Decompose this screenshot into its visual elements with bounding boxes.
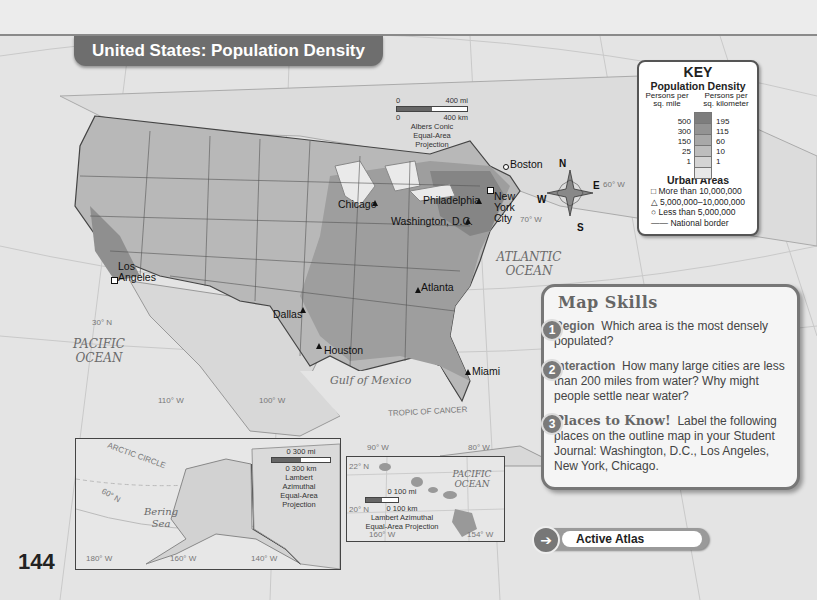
scale-end-km: 400 km <box>443 113 468 122</box>
hawaii-pacific-label: PACIFIC OCEAN <box>447 469 497 489</box>
city-marker-atlanta <box>415 287 421 293</box>
hawaii-projection: Lambert Azimuthal Equal-Area Projection <box>365 513 439 531</box>
page-header-strip <box>0 0 817 36</box>
lon-154w: 154° W <box>467 530 493 539</box>
projection-label: Albers Conic Equal-Area Projection <box>403 122 461 149</box>
map-skills-heading: Map Skills <box>558 293 797 312</box>
lon-140w: 140° W <box>251 554 277 563</box>
urban-medium: △ 5,000,000–10,000,000 <box>651 197 757 208</box>
scale-start-km: 0 <box>396 113 400 122</box>
lon-60w: 60° W <box>603 180 625 189</box>
arrow-right-icon: ➔ <box>532 526 560 554</box>
compass-e: E <box>593 180 600 191</box>
city-marker-miami <box>465 369 471 375</box>
alaska-scale-mi: 0 300 mi <box>271 447 331 456</box>
swatch-2 <box>694 124 712 135</box>
lon-160w-hawaii: 160° W <box>369 530 395 539</box>
map-title: United States: Population Density <box>74 36 383 66</box>
pacific-ocean-label: PACIFIC OCEAN <box>68 337 130 365</box>
compass-rose: N S E W <box>545 168 595 218</box>
city-marker-los-angeles <box>111 277 118 284</box>
gulf-of-mexico-label: Gulf of Mexico <box>330 374 411 388</box>
level-km-1: 1 <box>716 157 720 166</box>
city-label-atlanta: Atlanta <box>421 281 454 293</box>
city-marker-boston <box>503 164 509 170</box>
city-label-los-angeles: Los Angeles <box>118 261 156 283</box>
city-label-houston: Houston <box>324 344 363 356</box>
level-km-10: 10 <box>716 147 725 156</box>
city-marker-philadelphia <box>476 198 482 204</box>
swatch-4 <box>694 146 712 157</box>
swatch-3 <box>694 135 712 146</box>
active-atlas-label: Active Atlas <box>562 531 702 547</box>
national-border-label: National border <box>670 218 728 228</box>
city-marker-chicago <box>372 200 378 206</box>
hawaii-scale-km: 0 100 km <box>365 504 439 513</box>
scale-bar <box>396 106 468 112</box>
map-key: KEY Population Density Persons per sq. m… <box>637 60 759 236</box>
key-heading: KEY <box>639 64 757 80</box>
active-atlas-button[interactable]: ➔ Active Atlas <box>534 528 709 550</box>
question-3: 3 Places to Know! Label the following pl… <box>554 413 790 474</box>
alaska-inset: ARCTIC CIRCLE 60° N Bering Sea 180° W 16… <box>75 438 341 570</box>
question-3-title: Places to Know! <box>554 413 671 428</box>
city-marker-dallas <box>300 307 306 313</box>
alaska-scale-bar <box>271 457 331 463</box>
line-icon: —— <box>651 218 670 228</box>
scale-start: 0 <box>396 96 400 105</box>
square-icon: □ <box>651 186 659 196</box>
lon-90w: 90° W <box>367 443 389 452</box>
map-skills-panel: Map Skills 1 Region Which area is the mo… <box>541 284 800 490</box>
lat-22n: 22° N <box>349 462 369 471</box>
compass-n: N <box>559 158 566 169</box>
city-marker-washington <box>465 218 471 224</box>
level-km-115: 115 <box>716 127 729 136</box>
lon-110w: 110° W <box>158 396 184 405</box>
alaska-scale: 0 300 mi 0 300 km Lambert Azimuthal Equa… <box>271 447 331 509</box>
city-label-dallas: Dallas <box>273 308 302 320</box>
hawaii-scale-bar <box>365 497 399 503</box>
key-col-miles: Persons per sq. mile <box>643 92 691 108</box>
main-map-scale: 0400 mi 0400 km Albers Conic Equal-Area … <box>396 96 468 149</box>
triangle-icon: △ <box>651 197 660 207</box>
bering-sea-label: Bering Sea <box>141 506 181 530</box>
lon-160w: 160° W <box>170 554 196 563</box>
lon-180w: 180° W <box>86 554 112 563</box>
compass-w: W <box>537 194 546 205</box>
level-mile-300: 300 <box>678 127 691 136</box>
key-col-km: Persons per sq. kilometer <box>699 92 753 108</box>
level-mile-150: 150 <box>678 137 691 146</box>
number-3-icon: 3 <box>541 413 563 435</box>
compass-star-icon <box>545 168 595 218</box>
page-number: 144 <box>18 549 55 575</box>
number-1-icon: 1 <box>541 319 563 341</box>
city-label-washington: Washington, D.C. <box>391 215 473 227</box>
urban-small-label: Less than 5,000,000 <box>659 207 736 217</box>
level-km-60: 60 <box>716 137 725 146</box>
hawaii-scale-mi: 0 100 mi <box>365 487 439 496</box>
level-mile-1: 1 <box>687 157 691 166</box>
level-mile-500: 500 <box>678 117 691 126</box>
urban-medium-label: 5,000,000–10,000,000 <box>660 197 745 207</box>
urban-small: ○ Less than 5,000,000 <box>651 207 757 218</box>
question-2-title: Interaction <box>554 359 615 373</box>
circle-icon: ○ <box>651 207 659 217</box>
lat-30n: 30° N <box>92 318 112 327</box>
lon-70w: 70° W <box>520 215 542 224</box>
urban-large-label: More than 10,000,000 <box>659 186 742 196</box>
swatch-1 <box>694 112 712 124</box>
scale-end-mi: 400 mi <box>445 96 468 105</box>
swatch-5 <box>694 157 712 168</box>
alaska-projection: Lambert Azimuthal Equal-Area Projection <box>271 473 327 509</box>
city-marker-houston <box>316 343 322 349</box>
swatch-6 <box>694 168 712 179</box>
urban-large: □ More than 10,000,000 <box>651 186 757 197</box>
question-1: 1 Region Which area is the most densely … <box>554 319 790 349</box>
city-marker-new-york <box>487 187 494 194</box>
level-mile-25: 25 <box>682 147 691 156</box>
city-label-miami: Miami <box>472 365 500 377</box>
hawaii-scale: 0 100 mi 0 100 km Lambert Azimuthal Equa… <box>365 487 439 531</box>
atlantic-ocean-label: ATLANTIC OCEAN <box>494 250 564 278</box>
question-2: 2 Interaction How many large cities are … <box>554 359 790 404</box>
density-scale: 500 300 150 25 1 195 115 60 10 1 <box>639 110 757 174</box>
